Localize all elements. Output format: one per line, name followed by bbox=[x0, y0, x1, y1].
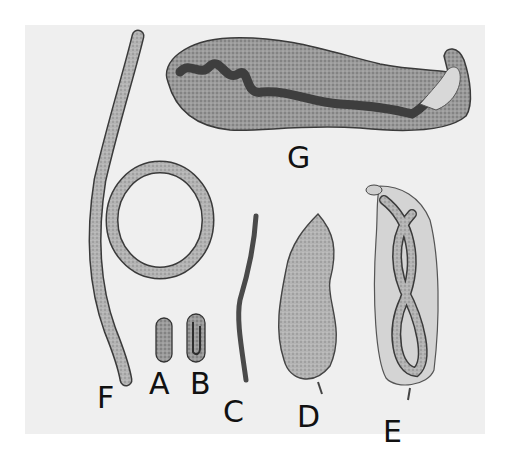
label-a: A bbox=[149, 369, 170, 399]
label-c: C bbox=[223, 397, 244, 427]
specimen-g bbox=[167, 38, 471, 131]
specimen-b bbox=[187, 314, 205, 362]
specimen-c bbox=[239, 216, 256, 380]
specimen-e bbox=[366, 185, 438, 400]
label-b: B bbox=[190, 369, 211, 399]
label-g: G bbox=[287, 143, 310, 173]
illustration-plate: F A B C D E G bbox=[25, 25, 485, 434]
specimen-a bbox=[156, 318, 172, 362]
specimen-drawing bbox=[0, 0, 510, 451]
specimen-d bbox=[279, 214, 337, 394]
label-d: D bbox=[297, 402, 320, 432]
label-e: E bbox=[383, 417, 402, 447]
label-f: F bbox=[97, 383, 114, 413]
